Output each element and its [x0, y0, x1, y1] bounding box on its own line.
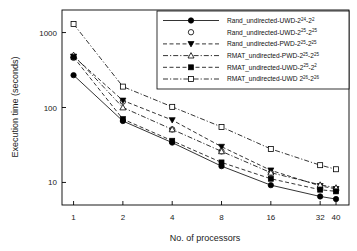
legend-label-name: RMAT_undirected-UWD-2 — [227, 64, 304, 72]
marker-filled-circle — [71, 72, 76, 77]
x-tick-label: 16 — [266, 213, 275, 222]
x-tick-label: 4 — [170, 213, 175, 222]
y-tick-label: 10 — [48, 178, 57, 187]
marker-filled-circle — [268, 182, 273, 187]
x-tick-label: 8 — [219, 213, 224, 222]
y-tick-label: 100 — [44, 104, 58, 113]
marker-open-square — [71, 22, 76, 27]
marker-filled-square — [120, 117, 125, 122]
marker-filled-square — [71, 55, 76, 60]
marker-open-circle — [188, 30, 193, 35]
legend-label-name: Rand_undirected-UWD-2 — [227, 17, 301, 25]
marker-filled-square — [189, 65, 194, 70]
legend-label-exponent-2: 25 — [312, 28, 318, 33]
marker-filled-square — [268, 176, 273, 181]
marker-filled-circle — [188, 18, 193, 23]
marker-filled-square — [170, 138, 175, 143]
y-axis-title: Execution time (seconds) — [10, 56, 20, 157]
marker-open-square — [219, 124, 224, 129]
marker-open-square — [189, 77, 194, 82]
marker-open-square — [170, 104, 175, 109]
legend-label-exponent-2: 25 — [312, 40, 318, 45]
marker-open-square — [268, 146, 273, 151]
marker-open-square — [318, 163, 323, 168]
y-tick-label: 1000 — [39, 29, 57, 38]
execution-time-log-log-chart: 101001000 1248163240 Rand_undirected-UWD… — [0, 0, 357, 251]
marker-filled-square — [219, 160, 224, 165]
legend-label-name: Rand_undirected-UWD-2 — [227, 29, 301, 37]
marker-filled-circle — [317, 194, 322, 199]
marker-open-square — [120, 84, 125, 89]
chart-figure: 101001000 1248163240 Rand_undirected-UWD… — [0, 0, 357, 251]
x-tick-label: 1 — [71, 213, 76, 222]
marker-open-square — [334, 167, 339, 172]
legend-label-name: Rand_undirected-PWD-2 — [227, 40, 301, 48]
legend-label-name: RMAT_undirected-UWD 2 — [227, 75, 303, 83]
marker-filled-square — [334, 189, 339, 194]
marker-filled-circle — [333, 196, 338, 201]
legend-label-exponent-2: 25 — [314, 52, 320, 57]
legend-label-exponent-2: 26 — [314, 75, 320, 80]
x-axis-title: No. of processors — [170, 233, 241, 243]
x-tick-label: 40 — [332, 213, 341, 222]
chart-legend: Rand_undirected-UWD-224-22Rand_undirecte… — [157, 11, 349, 89]
legend-label-name: RMAT_undirected-PWD-2 — [227, 52, 303, 60]
x-tick-label: 32 — [316, 213, 325, 222]
x-tick-label: 2 — [121, 213, 126, 222]
marker-filled-square — [318, 187, 323, 192]
